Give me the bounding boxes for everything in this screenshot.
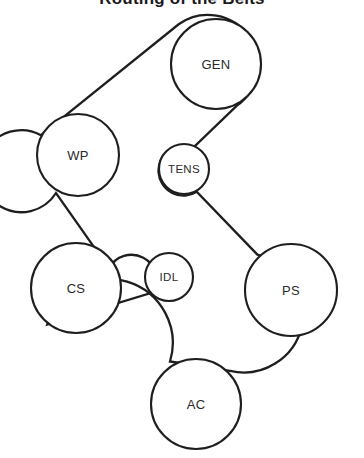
pulley-ps-label: PS	[282, 283, 300, 298]
pulley-gen[interactable]: GEN	[171, 19, 261, 109]
pulley-tens[interactable]: TENS	[159, 144, 209, 194]
diagram-canvas: GEN WP TENS CS IDL PS	[0, 0, 364, 458]
pulley-idl-label: IDL	[160, 271, 179, 283]
pulley-wp-label: WP	[67, 148, 89, 163]
pulley-cs[interactable]: CS	[31, 243, 121, 333]
pulley-group: GEN WP TENS CS IDL PS	[31, 19, 337, 449]
pulley-tens-label: TENS	[168, 163, 200, 175]
pulley-wp[interactable]: WP	[37, 114, 119, 196]
pulley-ac[interactable]: AC	[151, 359, 241, 449]
pulley-cs-label: CS	[67, 281, 86, 296]
belt-routing-diagram: Routing of the Belts GEN WP TENS CS	[0, 0, 364, 458]
pulley-ps[interactable]: PS	[245, 244, 337, 336]
pulley-gen-label: GEN	[201, 57, 230, 72]
pulley-idl[interactable]: IDL	[145, 253, 193, 301]
pulley-ac-label: AC	[187, 397, 206, 412]
